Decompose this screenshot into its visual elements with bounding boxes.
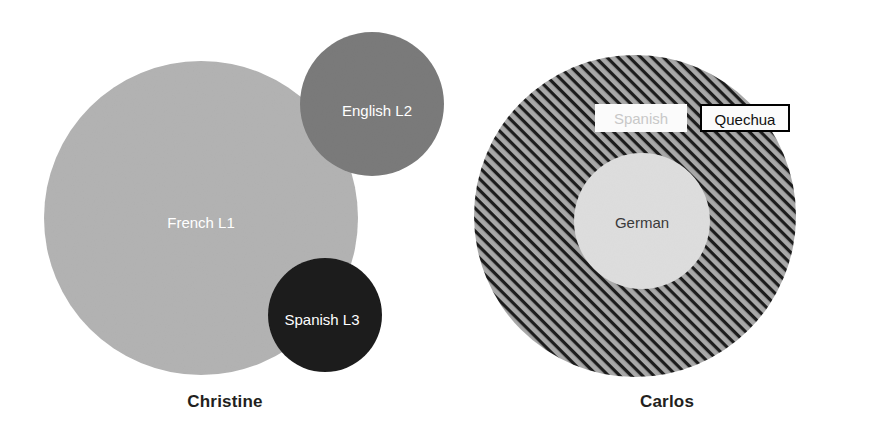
carlos-circles-svg [450, 0, 884, 439]
diagram-canvas: French L1 English L2 Spanish L3 Christin… [0, 0, 884, 439]
christine-circles-svg [0, 0, 450, 439]
label-spanish-boxed: Spanish [595, 104, 687, 132]
panel-christine: French L1 English L2 Spanish L3 Christin… [0, 0, 450, 439]
circle-spanish-l3 [268, 258, 382, 372]
person-name-christine: Christine [0, 392, 450, 412]
label-quechua-boxed: Quechua [700, 104, 790, 132]
circle-german-inner [574, 153, 710, 289]
person-name-carlos: Carlos [450, 392, 884, 412]
panel-carlos: Spanish Quechua German Carlos [450, 0, 884, 439]
circle-english-l2 [300, 32, 444, 176]
